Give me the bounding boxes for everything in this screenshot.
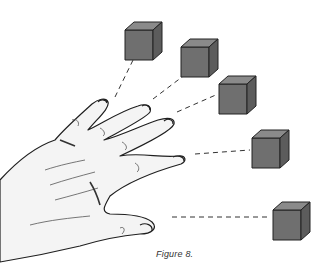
ring-line — [153, 74, 186, 99]
cube-ring — [181, 39, 218, 77]
index-line — [195, 150, 250, 154]
pinky-line — [115, 56, 135, 97]
cube-middle — [219, 76, 256, 114]
middle-line — [177, 94, 218, 112]
cube-thumb — [273, 202, 310, 240]
figure-illustration — [0, 0, 323, 277]
hand-drawing — [0, 99, 185, 262]
cube-index — [252, 130, 289, 168]
cube-pinky — [125, 22, 162, 60]
figure-caption: Figure 8. — [156, 249, 193, 259]
